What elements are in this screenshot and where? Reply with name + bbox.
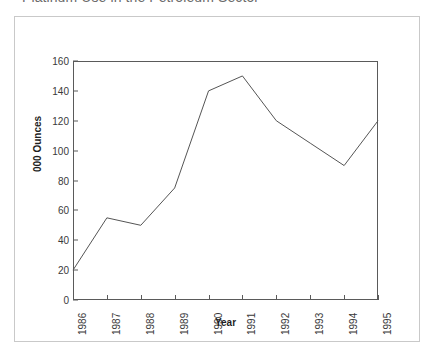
series-line (73, 76, 378, 270)
y-axis-tick-label: 80 (58, 175, 69, 186)
y-axis-tick-mark (73, 61, 78, 62)
plot-area (73, 61, 378, 300)
y-axis-tick-label: 140 (52, 85, 69, 96)
y-axis-tick-label: 20 (58, 265, 69, 276)
y-axis-tick-label: 100 (52, 145, 69, 156)
y-axis-tick-label: 0 (63, 295, 69, 306)
line-series (73, 61, 378, 300)
x-axis-tick-mark (73, 295, 74, 300)
x-axis-tick-mark (310, 295, 311, 300)
y-axis-tick-mark (73, 210, 78, 211)
x-axis-tick-mark (209, 295, 210, 300)
x-axis-tick-mark (276, 295, 277, 300)
x-axis-tick-mark (344, 295, 345, 300)
y-axis-tick-mark (73, 180, 78, 181)
chart-frame: 000 Ounces 020406080100120140160 1986198… (14, 16, 420, 342)
y-axis-tick-label: 60 (58, 205, 69, 216)
x-axis-tick-mark (107, 295, 108, 300)
y-axis-tick-mark (73, 240, 78, 241)
y-axis-tick-label: 40 (58, 235, 69, 246)
y-axis-tick-mark (73, 120, 78, 121)
y-axis-tick-mark (73, 150, 78, 151)
y-axis-tick-labels: 020406080100120140160 (43, 61, 69, 300)
y-axis-tick-mark (73, 90, 78, 91)
x-axis-title: Year (73, 317, 378, 328)
x-axis-tick-mark (378, 295, 379, 300)
y-axis-tick-label: 160 (52, 56, 69, 67)
x-axis-tick-mark (141, 295, 142, 300)
chart-title: Platinum Use in the Petroleum Sector (22, 0, 259, 5)
y-axis-tick-mark (73, 270, 78, 271)
x-axis-tick-label: 1995 (382, 313, 393, 335)
y-axis-tick-label: 120 (52, 115, 69, 126)
x-axis-tick-mark (175, 295, 176, 300)
x-axis-tick-mark (242, 295, 243, 300)
